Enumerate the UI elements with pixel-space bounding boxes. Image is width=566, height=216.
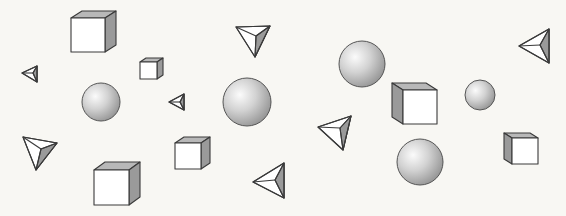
cube-bottom-left-icon: [94, 162, 140, 205]
sphere-top-right-icon: [339, 41, 385, 87]
sphere-bottom-right-icon: [397, 139, 443, 185]
cube-top-left-icon: [71, 11, 116, 52]
cube-far-right-icon: [504, 133, 538, 164]
shapes-scene: [0, 0, 566, 216]
cube-small-top-icon: [140, 58, 163, 79]
sphere-far-right-icon: [465, 80, 495, 110]
sphere-left-icon: [82, 83, 120, 121]
cube-right-center-icon: [392, 83, 437, 124]
cube-mid-bottom-icon: [175, 137, 210, 169]
sphere-center-icon: [223, 78, 271, 126]
